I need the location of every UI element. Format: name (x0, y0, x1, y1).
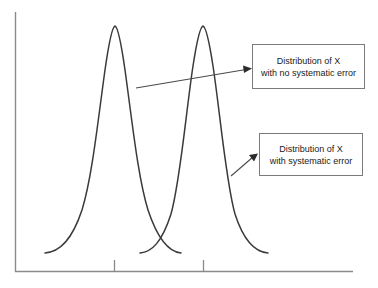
callout-no-error-line-2: with no systematic error (261, 67, 356, 79)
callout-no-error-line-1: Distribution of X (277, 55, 341, 67)
callout-with-error-line-2: with systematic error (270, 155, 353, 167)
callout-with-systematic-error: Distribution of X with systematic error (259, 133, 363, 176)
callout-no-systematic-error: Distribution of X with no systematic err… (252, 44, 365, 89)
callout-with-error-line-1: Distribution of X (279, 143, 343, 155)
